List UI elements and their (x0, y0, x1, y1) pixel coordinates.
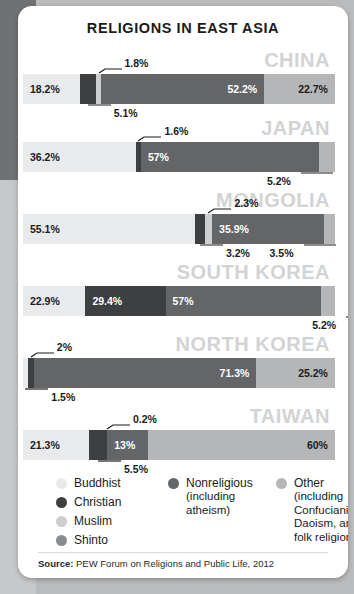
segment-christian: 29.4% (85, 286, 165, 316)
segment-other: 60% (148, 430, 335, 460)
bar-taiwan: 21.3%13%60% (23, 430, 335, 460)
segment-nonreligious: 57% (141, 142, 319, 172)
source-note: Source: PEW Forum on Religions and Publi… (38, 558, 274, 569)
legend-swatch-nonreligious-icon (168, 478, 179, 489)
segment-buddhist: 55.1% (23, 214, 195, 244)
callout-other: 5.2% (267, 175, 291, 187)
segment-value-buddhist: 36.2% (23, 151, 60, 163)
country-label-south-korea: SOUTH KOREA (177, 262, 330, 282)
legend-label: Shinto (74, 533, 108, 547)
segment-value-buddhist: 21.3% (23, 439, 60, 451)
segment-other: 25.2% (256, 358, 335, 388)
legend-label: Muslim (74, 514, 112, 528)
bar-mongolia: 55.1%35.9% (23, 214, 335, 244)
segment-other (324, 214, 335, 244)
leader-line-other (261, 171, 335, 175)
country-label-north-korea: NORTH KOREA (176, 334, 330, 354)
segment-nonreligious: 13% (107, 430, 148, 460)
segment-buddhist: 18.2% (23, 74, 80, 104)
leader-line-christian (132, 135, 172, 143)
segment-value-buddhist: 18.2% (23, 83, 60, 95)
segment-value-nonreligious: 57% (141, 151, 169, 163)
leader-line-christian (25, 351, 65, 359)
callout-other: 5.2% (312, 319, 336, 331)
segment-christian (80, 74, 96, 104)
legend-label: Nonreligious (186, 476, 278, 490)
segment-value-other: 22.7% (298, 83, 328, 95)
leader-line-christian (194, 243, 234, 247)
legend-swatch-christian-icon (56, 497, 67, 508)
legend-item-muslim: Muslim (56, 514, 171, 528)
callout-other: 3.5% (270, 247, 294, 259)
chart-legend: BuddhistChristianMuslimShinto Nonreligio… (18, 476, 348, 551)
segment-nonreligious: 57% (166, 286, 321, 316)
country-label-china: CHINA (264, 50, 330, 70)
segment-buddhist: 22.9% (23, 286, 85, 316)
legend-column-3: Other(including Confucianism, Daoism, an… (276, 476, 348, 549)
segment-value-nonreligious: 71.3% (220, 367, 250, 379)
legend-swatch-muslim-icon (56, 516, 67, 527)
bar-south-korea: 22.9%29.4%57% (23, 286, 335, 316)
infographic-card: RELIGIONS IN EAST ASIA CHINA18.2%52.2%22… (18, 6, 348, 578)
segment-value-nonreligious: 57% (166, 295, 194, 307)
leader-line-muslim (101, 423, 141, 431)
segment-muslim (205, 214, 212, 244)
segment-value-buddhist: 55.1% (23, 223, 60, 235)
legend-item-nonreligious: Nonreligious(including atheism) (168, 476, 278, 517)
bar-china: 18.2%52.2%22.7% (23, 74, 335, 104)
legend-item-shinto: Shinto (56, 533, 171, 547)
callout-christian: 3.2% (226, 247, 250, 259)
legend-column-1: BuddhistChristianMuslimShinto (56, 476, 171, 553)
source-label: Source: (38, 558, 73, 569)
leader-line-muslim (202, 207, 242, 215)
segment-nonreligious: 52.2% (101, 74, 264, 104)
leader-line-muslim (93, 67, 133, 75)
bar-north-korea: 71.3%25.2% (23, 358, 335, 388)
country-label-taiwan: TAIWAN (250, 406, 330, 426)
legend-column-2: Nonreligious(including atheism) (168, 476, 278, 522)
segment-value-nonreligious: 13% (107, 439, 135, 451)
legend-swatch-shinto-icon (56, 535, 67, 546)
country-label-japan: JAPAN (261, 118, 330, 138)
segment-christian (195, 214, 205, 244)
segment-nonreligious: 35.9% (212, 214, 324, 244)
segment-other (321, 286, 335, 316)
legend-label: Christian (74, 495, 121, 509)
legend-label: Other (294, 476, 348, 490)
legend-swatch-other-icon (276, 478, 287, 489)
segment-value-nonreligious: 35.9% (212, 223, 249, 235)
legend-item-buddhist: Buddhist (56, 476, 171, 490)
source-text: PEW Forum on Religions and Public Life, … (73, 558, 274, 569)
callout-buddhist: 1.5% (51, 391, 75, 403)
leader-line-other (306, 315, 348, 319)
legend-sublabel: (including atheism) (186, 490, 278, 517)
callout-christian: 5.5% (124, 463, 148, 475)
segment-buddhist: 21.3% (23, 430, 89, 460)
segment-value-other: 60% (307, 439, 328, 451)
bar-japan: 36.2%57% (23, 142, 335, 172)
page-title: RELIGIONS IN EAST ASIA (18, 20, 348, 36)
leader-line-christian (92, 459, 132, 463)
legend-label: Buddhist (74, 476, 121, 490)
source-divider (38, 552, 328, 553)
legend-sublabel: (including Confucianism, Daoism, and fol… (294, 490, 348, 544)
segment-other: 22.7% (264, 74, 335, 104)
segment-buddhist: 36.2% (23, 142, 136, 172)
leader-line-other (264, 243, 338, 247)
segment-value-other: 25.2% (298, 367, 328, 379)
segment-value-buddhist: 22.9% (23, 295, 60, 307)
legend-item-other: Other(including Confucianism, Daoism, an… (276, 476, 348, 544)
segment-other (319, 142, 335, 172)
leader-line-buddhist (19, 387, 59, 391)
legend-swatch-buddhist-icon (56, 478, 67, 489)
stacked-bar-chart: CHINA18.2%52.2%22.7%5.1%1.8%JAPAN36.2%57… (18, 42, 348, 482)
callout-christian: 5.1% (114, 107, 138, 119)
segment-value-nonreligious: 52.2% (227, 83, 257, 95)
segment-nonreligious: 71.3% (34, 358, 256, 388)
segment-value-christian: 29.4% (85, 295, 122, 307)
segment-christian (89, 430, 106, 460)
legend-item-christian: Christian (56, 495, 171, 509)
leader-line-christian (82, 103, 122, 107)
